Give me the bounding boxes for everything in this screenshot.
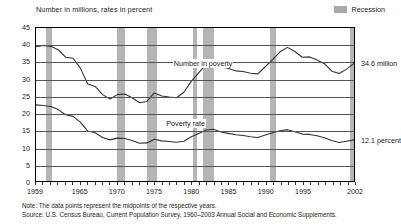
series-lines bbox=[36, 28, 354, 181]
series-end-label: 34.6 million bbox=[361, 59, 397, 68]
chart-legend: Recession bbox=[334, 5, 385, 14]
gridline bbox=[36, 97, 354, 98]
gridline bbox=[36, 45, 354, 46]
x-axis-tick bbox=[236, 182, 237, 185]
x-axis-tick bbox=[310, 182, 311, 185]
chart-plot-area bbox=[35, 27, 355, 182]
x-axis-tick-label: 1959 bbox=[20, 187, 50, 196]
x-axis-tick bbox=[42, 182, 43, 185]
x-axis-tick bbox=[355, 182, 356, 185]
x-axis-tick bbox=[318, 182, 319, 185]
x-axis-tick-label: 1980 bbox=[176, 187, 206, 196]
y-axis-tick-label: 40 bbox=[0, 40, 30, 49]
x-axis-tick bbox=[206, 182, 207, 185]
x-axis-tick bbox=[35, 182, 36, 185]
y-axis-tick-label: 0 bbox=[0, 178, 30, 187]
x-axis-tick bbox=[184, 182, 185, 185]
recession-legend-swatch-icon bbox=[334, 6, 347, 13]
x-axis-tick bbox=[176, 182, 177, 185]
x-axis-tick bbox=[124, 182, 125, 185]
x-axis-tick bbox=[57, 182, 58, 185]
gridline bbox=[36, 114, 354, 115]
x-axis-tick-label: 1970 bbox=[102, 187, 132, 196]
x-axis-tick bbox=[273, 182, 274, 185]
y-axis-tick-label: 15 bbox=[0, 126, 30, 135]
series-end-label: 12.1 percent bbox=[361, 136, 401, 145]
x-axis-tick-label: 1990 bbox=[251, 187, 281, 196]
y-axis-tick-label: 20 bbox=[0, 109, 30, 118]
gridline bbox=[36, 80, 354, 81]
x-axis-tick bbox=[228, 182, 229, 185]
x-axis-tick bbox=[281, 182, 282, 185]
series-line bbox=[36, 45, 354, 102]
x-axis-tick-label: 1985 bbox=[213, 187, 243, 196]
x-axis-tick bbox=[139, 182, 140, 185]
x-axis-tick-label: 1975 bbox=[139, 187, 169, 196]
recession-legend-label: Recession bbox=[351, 5, 385, 14]
x-axis-tick-label: 1995 bbox=[288, 187, 318, 196]
x-axis-tick bbox=[132, 182, 133, 185]
x-axis-tick bbox=[266, 182, 267, 185]
x-axis-tick bbox=[251, 182, 252, 185]
x-axis-tick bbox=[214, 182, 215, 185]
y-axis-tick-label: 10 bbox=[0, 144, 30, 153]
y-axis-tick-label: 30 bbox=[0, 75, 30, 84]
y-axis-tick-label: 5 bbox=[0, 161, 30, 170]
x-axis-tick bbox=[80, 182, 81, 185]
x-axis-tick bbox=[333, 182, 334, 185]
x-axis-tick bbox=[87, 182, 88, 185]
x-axis-tick bbox=[288, 182, 289, 185]
gridline bbox=[36, 166, 354, 167]
x-axis-tick bbox=[95, 182, 96, 185]
x-axis-tick bbox=[258, 182, 259, 185]
x-axis-tick bbox=[325, 182, 326, 185]
x-axis-tick bbox=[169, 182, 170, 185]
chart-source: Source: U.S. Census Bureau, Current Popu… bbox=[22, 211, 337, 218]
x-axis-tick-label: 2002 bbox=[340, 187, 370, 196]
x-axis-tick bbox=[199, 182, 200, 185]
x-axis-tick bbox=[221, 182, 222, 185]
y-axis-tick-label: 45 bbox=[0, 23, 30, 32]
x-axis-tick bbox=[191, 182, 192, 185]
x-axis-tick bbox=[162, 182, 163, 185]
series-inline-label: Poverty rate bbox=[165, 119, 206, 128]
x-axis-tick bbox=[65, 182, 66, 185]
x-axis-tick bbox=[340, 182, 341, 185]
x-axis-tick bbox=[102, 182, 103, 185]
x-axis-tick bbox=[243, 182, 244, 185]
x-axis-tick bbox=[303, 182, 304, 185]
x-axis-tick bbox=[109, 182, 110, 185]
chart-note: Note: The data points represent the midp… bbox=[22, 202, 217, 209]
y-axis-tick-label: 25 bbox=[0, 92, 30, 101]
x-axis-tick bbox=[147, 182, 148, 185]
gridline bbox=[36, 149, 354, 150]
series-inline-label: Number in poverty bbox=[173, 59, 234, 68]
x-axis-tick-label: 1965 bbox=[65, 187, 95, 196]
x-axis-tick bbox=[50, 182, 51, 185]
gridline bbox=[36, 131, 354, 132]
x-axis-tick bbox=[117, 182, 118, 185]
y-axis-tick-label: 35 bbox=[0, 57, 30, 66]
x-axis-tick bbox=[72, 182, 73, 185]
x-axis-tick bbox=[295, 182, 296, 185]
x-axis-tick bbox=[154, 182, 155, 185]
x-axis-tick bbox=[348, 182, 349, 185]
chart-axis-units-title: Number in millions, rates in percent bbox=[36, 5, 152, 14]
